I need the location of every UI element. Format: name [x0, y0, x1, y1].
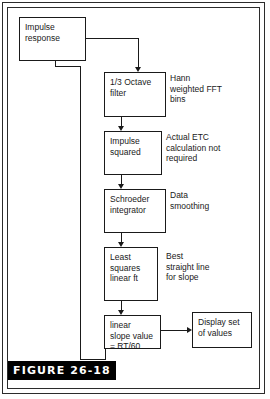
- node-third-octave-filter-line-2: filter: [110, 88, 160, 99]
- figure-container: Impulse response 1/3 Octave filter Impul…: [0, 0, 270, 399]
- node-least-squares-line-1: Least: [110, 252, 152, 263]
- node-linear-slope-line-2: slope value: [110, 331, 155, 342]
- note-etc-line-3: required: [166, 153, 220, 164]
- node-impulse-squared-line-2: squared: [110, 147, 156, 158]
- note-hann-line-1: Hann: [170, 73, 222, 84]
- note-best-line-2: straight line: [166, 262, 209, 273]
- connector-slope-to-display: [160, 330, 188, 331]
- connector-feedback-horizontal-bottom: [80, 359, 106, 360]
- node-impulse-response-line-1: Impulse: [25, 22, 80, 33]
- note-actual-etc-calculation-not-required: Actual ETC calculation not required: [166, 132, 220, 164]
- node-display-line-1: Display set: [198, 317, 246, 328]
- node-impulse-squared-line-1: Impulse: [110, 136, 156, 147]
- note-hann-line-3: bins: [170, 94, 222, 105]
- connector-feedback-horizontal-top: [55, 66, 81, 67]
- note-hann-line-2: weighted FFT: [170, 84, 222, 95]
- node-impulse-response-line-2: response: [25, 33, 80, 44]
- note-etc-line-2: calculation not: [166, 143, 220, 154]
- connector-feedback-up-left: [80, 66, 81, 360]
- node-display-set-of-values[interactable]: Display set of values: [192, 312, 252, 348]
- node-least-squares-line-3: linear ft: [110, 273, 152, 284]
- note-smoothing-line-2: smoothing: [170, 201, 209, 212]
- connector-impulse-to-filter-vertical: [138, 38, 139, 69]
- node-display-line-2: of values: [198, 328, 246, 339]
- node-schroeder-integrator-line-2: integrator: [110, 205, 160, 216]
- note-best-line-3: for slope: [166, 272, 209, 283]
- note-etc-line-1: Actual ETC: [166, 132, 220, 143]
- node-linear-slope-value[interactable]: linear slope value = RT/60: [104, 315, 161, 349]
- node-third-octave-filter-line-1: 1/3 Octave: [110, 77, 160, 88]
- note-data-smoothing: Data smoothing: [170, 190, 209, 211]
- node-schroeder-integrator-line-1: Schroeder: [110, 194, 160, 205]
- note-hann-weighted-fft-bins: Hann weighted FFT bins: [170, 73, 222, 105]
- node-impulse-response[interactable]: Impulse response: [19, 17, 86, 61]
- node-impulse-squared[interactable]: Impulse squared: [104, 131, 162, 175]
- connector-impulse-to-filter-horizontal: [86, 38, 139, 39]
- node-least-squares-linear-fit[interactable]: Least squares linear ft: [104, 247, 158, 301]
- note-best-line-1: Best: [166, 251, 209, 262]
- connector-feedback-into-impulse: [55, 61, 56, 67]
- figure-caption-plate: FIGURE 26-18: [8, 361, 116, 380]
- node-third-octave-filter[interactable]: 1/3 Octave filter: [104, 72, 166, 117]
- node-schroeder-integrator[interactable]: Schroeder integrator: [104, 189, 166, 233]
- node-least-squares-line-2: squares: [110, 263, 152, 274]
- note-smoothing-line-1: Data: [170, 190, 209, 201]
- note-best-straight-line-for-slope: Best straight line for slope: [166, 251, 209, 283]
- node-linear-slope-line-3: = RT/60: [110, 341, 155, 352]
- figure-caption-label: FIGURE 26-18: [8, 361, 116, 380]
- node-linear-slope-line-1: linear: [110, 320, 155, 331]
